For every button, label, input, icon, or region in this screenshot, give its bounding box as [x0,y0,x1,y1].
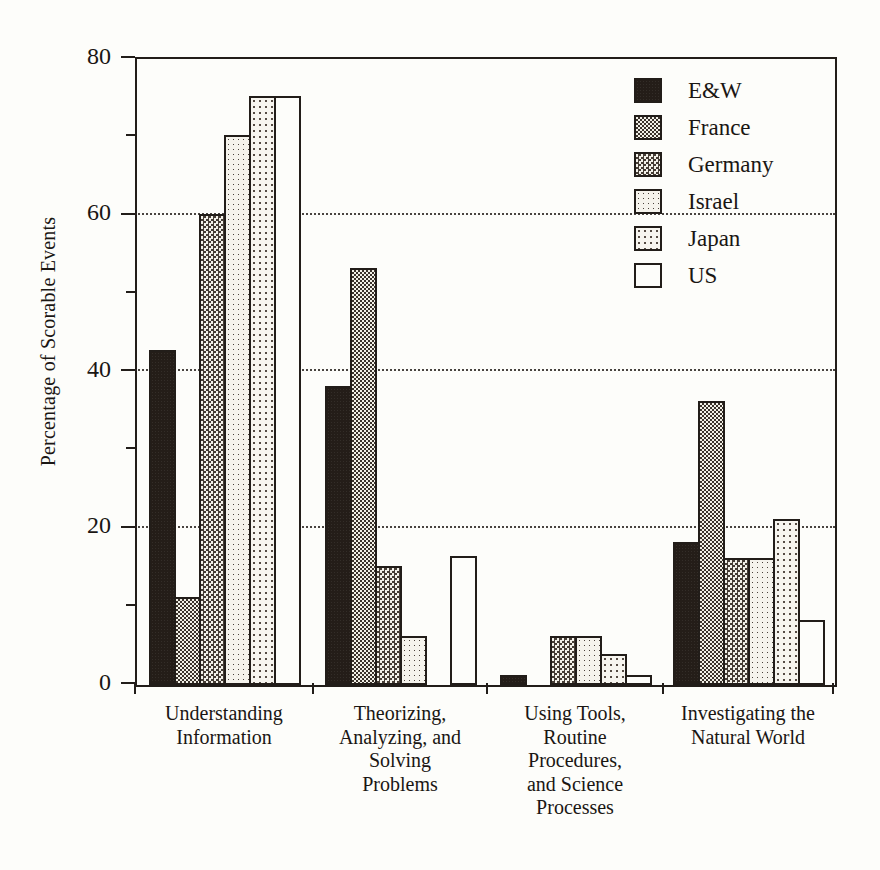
bar-ew-group1 [149,350,176,685]
bar-france-group1 [174,597,201,685]
bar-germany-group2 [375,566,402,685]
legend-label: E&W [688,79,742,102]
x-axis-tick-3 [662,683,664,694]
bar-us-group3 [625,675,652,685]
bar-us-group2 [450,556,477,685]
bar-japan-group3 [600,654,627,685]
bar-germany-group4 [723,558,750,685]
bar-us-group4 [798,620,825,685]
bar-israel-group1 [224,135,251,685]
x-axis-tick-4 [832,683,834,694]
x-axis-tick-0 [134,683,136,694]
legend-label: Israel [688,190,739,213]
x-axis-tick-2 [486,683,488,694]
legend-swatch-icon [634,263,662,288]
legend-item-japan: Japan [634,220,824,257]
legend-label: Japan [688,227,740,250]
y-tick-minor-50 [126,291,135,293]
legend-item-us: US [634,257,824,294]
bar-ew-group3 [500,675,527,685]
legend-item-ew: E&W [634,72,824,109]
chart-page: Percentage of Scorable Events 80 60 40 2… [0,0,880,870]
y-tick-minor-70 [126,134,135,136]
legend-item-israel: Israel [634,183,824,220]
bar-ew-group2 [325,386,352,685]
legend-swatch-icon [634,226,662,251]
legend-label: US [688,264,717,287]
legend-item-france: France [634,109,824,146]
legend-label: France [688,116,751,139]
bar-us-group1 [274,96,301,685]
legend: E&WFranceGermanyIsraelJapanUS [634,72,824,294]
bar-japan-group1 [249,96,276,685]
y-tick-major-0 [121,682,135,684]
x-axis-tick-1 [312,683,314,694]
y-tick-minor-30 [126,447,135,449]
y-tick-major-80 [121,56,135,58]
bar-israel-group4 [748,558,775,685]
y-tick-label-0: 0 [47,670,111,694]
y-tick-major-20 [121,526,135,528]
bar-germany-group3 [550,636,577,685]
y-tick-label-40: 40 [47,357,111,381]
legend-label: Germany [688,153,774,176]
y-tick-major-60 [121,213,135,215]
y-tick-label-80: 80 [47,44,111,68]
y-tick-major-40 [121,369,135,371]
bar-france-group4 [698,401,725,685]
y-tick-label-20: 20 [47,513,111,537]
legend-swatch-icon [634,78,662,103]
legend-swatch-icon [634,115,662,140]
y-tick-label-60: 60 [47,200,111,224]
legend-swatch-icon [634,152,662,177]
x-axis-category-label-4: Investigating the Natural World [643,702,853,749]
bar-israel-group3 [575,636,602,685]
bar-germany-group1 [199,214,226,686]
bar-japan-group4 [773,519,800,685]
bar-ew-group4 [673,542,700,685]
y-tick-minor-10 [126,604,135,606]
legend-item-germany: Germany [634,146,824,183]
bar-france-group2 [350,268,377,685]
legend-swatch-icon [634,189,662,214]
bar-israel-group2 [400,636,427,685]
